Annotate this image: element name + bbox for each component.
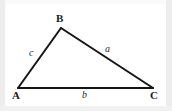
side-c-line (18, 28, 61, 88)
diagram-page: A B C a b c (0, 0, 172, 111)
vertex-label-b: B (56, 13, 63, 24)
vertex-label-a: A (12, 90, 20, 101)
side-label-b: b (82, 90, 87, 100)
side-label-a: a (105, 44, 110, 54)
vertex-label-c: C (150, 90, 158, 101)
side-a-line (61, 28, 153, 88)
side-label-c: c (29, 48, 33, 58)
